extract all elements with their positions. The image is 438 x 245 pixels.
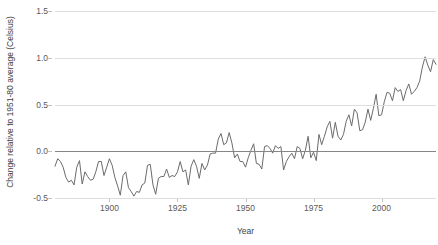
- x-tick-mark: [177, 199, 178, 202]
- y-tick-mark: [48, 151, 52, 152]
- y-tick-label: 1.0: [36, 54, 48, 63]
- temperature-anomaly-chart: Change relative to 1951-80 average (Cels…: [0, 0, 438, 245]
- y-tick-label: -0.5: [33, 194, 48, 203]
- y-tick-label: 1.5: [36, 7, 48, 16]
- x-tick-mark: [314, 199, 315, 202]
- chart-title: [60, 0, 380, 2]
- zero-gridline: [55, 151, 436, 152]
- y-tick-label: 0.0: [36, 147, 48, 156]
- y-tick-mark: [48, 105, 52, 106]
- x-axis-title: Year: [55, 226, 436, 236]
- x-tick-mark: [109, 199, 110, 202]
- y-tick-mark: [48, 198, 52, 199]
- gridline-y: [55, 58, 436, 59]
- x-tick-mark: [246, 199, 247, 202]
- y-tick-mark: [48, 58, 52, 59]
- y-tick-label: 0.5: [36, 101, 48, 110]
- x-tick-label: 1975: [304, 203, 323, 213]
- gridline-y: [55, 105, 436, 106]
- x-tick-label: 2000: [372, 203, 391, 213]
- y-tick-mark: [48, 11, 52, 12]
- plot-area: [55, 11, 436, 198]
- x-tick-mark: [382, 199, 383, 202]
- y-axis-tick-labels: -0.50.00.51.01.5: [0, 11, 48, 198]
- x-axis-tick-labels: 19001925195019752000: [55, 199, 436, 221]
- x-tick-label: 1925: [168, 203, 187, 213]
- x-tick-label: 1950: [236, 203, 255, 213]
- gridline-y: [55, 11, 436, 12]
- x-tick-label: 1900: [100, 203, 119, 213]
